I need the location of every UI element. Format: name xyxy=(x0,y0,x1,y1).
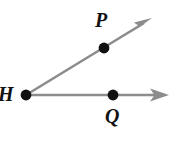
geometry-figure: H P Q xyxy=(0,0,180,145)
point-label-h: H xyxy=(0,84,14,104)
ray-hp-arrowhead xyxy=(131,18,152,33)
point-label-q: Q xyxy=(105,106,119,126)
ray-hp-group xyxy=(26,18,152,95)
point-label-p: P xyxy=(95,10,107,30)
ray-hq-group xyxy=(26,89,169,102)
point-h-dot xyxy=(21,90,32,101)
geometry-canvas xyxy=(0,0,180,145)
point-p-dot xyxy=(99,43,110,54)
ray-hp-line xyxy=(26,23,144,95)
point-q-dot xyxy=(108,90,119,101)
